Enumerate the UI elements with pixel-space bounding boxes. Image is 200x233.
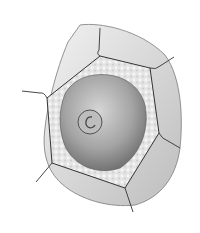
plant-cell-diagram [0, 0, 200, 233]
vacuole [60, 75, 146, 171]
nucleus [78, 110, 102, 134]
